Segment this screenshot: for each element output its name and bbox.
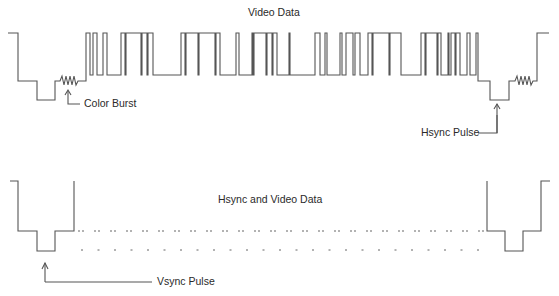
vsync-pulse-label: Vsync Pulse [157, 275, 215, 287]
vsync-field-waveform [10, 181, 550, 251]
video-data-title: Video Data [248, 6, 300, 18]
video-line-waveform [8, 33, 549, 100]
hsync-video-data-title: Hsync and Video Data [218, 193, 322, 205]
hsync-pulse-label: Hsync Pulse [421, 126, 479, 138]
color-burst-arrow [65, 90, 80, 104]
hsync-pulse-arrow [478, 104, 500, 133]
signal-diagram [0, 0, 559, 296]
vsync-pulse-arrow [42, 263, 152, 282]
color-burst-label: Color Burst [84, 97, 137, 109]
hsync-video-dashes [78, 231, 485, 250]
